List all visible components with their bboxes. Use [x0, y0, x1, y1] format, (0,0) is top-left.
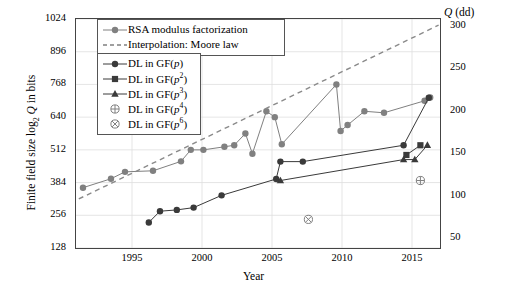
- data-point-circle: [277, 158, 283, 164]
- data-point-circle: [221, 144, 227, 150]
- legend-sample: [102, 57, 128, 71]
- series-6: [304, 215, 312, 223]
- data-point-circle: [112, 26, 118, 32]
- data-point-circle: [242, 130, 248, 136]
- legend-item-label: DL in GF(p3): [128, 87, 187, 100]
- x-tick-label: 2015: [382, 252, 442, 263]
- data-point-circle: [190, 204, 196, 210]
- data-point-circle: [344, 122, 350, 128]
- legend-primary-item[interactable]: Interpolation: Moore law: [102, 37, 280, 52]
- legend-primary-item[interactable]: RSA modulus factorization: [102, 22, 280, 37]
- x-tick-label: 2005: [242, 252, 302, 263]
- data-point-circle: [200, 147, 206, 153]
- data-point-circle: [174, 207, 180, 213]
- data-point-circle: [381, 110, 387, 116]
- data-point-circle: [337, 128, 343, 134]
- legend-sample: [102, 72, 128, 86]
- data-point-circle: [426, 95, 432, 101]
- legend-sample: [102, 38, 128, 52]
- data-point-circled-plus: [416, 176, 424, 184]
- data-point-circle: [279, 141, 285, 147]
- data-point-circle: [122, 169, 128, 175]
- data-point-circle: [218, 192, 224, 198]
- data-point-triangle: [424, 141, 431, 148]
- data-point-circle: [231, 142, 237, 148]
- y-tick-label: 1024: [22, 12, 66, 23]
- y-tick-label: 768: [22, 77, 66, 88]
- data-point-circle: [112, 60, 118, 66]
- y-tick-label: 640: [22, 110, 66, 121]
- data-point-circle: [361, 108, 367, 114]
- legend-dl-item[interactable]: DL in GF(p4): [102, 101, 196, 116]
- y-tick-label: 512: [22, 143, 66, 154]
- chart-figure: Finite field size log2 Q in bits Q (dd) …: [0, 0, 507, 293]
- legend-item-label: DL in GF(p): [128, 58, 183, 69]
- right-tick-label: 50: [450, 231, 484, 242]
- data-point-circle: [150, 168, 156, 174]
- x-axis-title: Year: [0, 270, 507, 282]
- data-point-square: [417, 142, 423, 148]
- y-tick-label: 256: [22, 208, 66, 219]
- x-tick-label: 2010: [312, 252, 372, 263]
- data-point-circle: [249, 150, 255, 156]
- right-tick-label: 150: [450, 146, 484, 157]
- right-tick-label: 300: [450, 19, 484, 30]
- legend-sample: [102, 87, 128, 101]
- data-point-circle: [178, 158, 184, 164]
- data-point-circle: [157, 208, 163, 214]
- y-tick-label: 896: [22, 45, 66, 56]
- data-point-circled-times: [304, 215, 312, 223]
- data-point-circle: [333, 81, 339, 87]
- series-5: [416, 176, 424, 184]
- legend-sample: [102, 117, 128, 131]
- y-tick-label: 384: [22, 176, 66, 187]
- legend-item-label: Interpolation: Moore law: [128, 39, 239, 50]
- legend-dl-item[interactable]: DL in GF(p6): [102, 116, 196, 131]
- data-point-circle: [108, 176, 114, 182]
- legend-item-label: DL in GF(p6): [128, 117, 187, 130]
- right-tick-label: 100: [450, 189, 484, 200]
- legend-dl-item[interactable]: DL in GF(p3): [102, 86, 196, 101]
- legend-box-dl: DL in GF(p)DL in GF(p2)DL in GF(p3)DL in…: [97, 53, 201, 135]
- x-tick-label: 2000: [172, 252, 232, 263]
- legend-box-primary: RSA modulus factorizationInterpolation: …: [97, 19, 285, 56]
- legend-item-label: RSA modulus factorization: [128, 24, 248, 35]
- legend-sample: [102, 102, 128, 116]
- data-point-square: [112, 75, 118, 81]
- data-point-circle: [272, 114, 278, 120]
- x-tick-label: 1995: [102, 252, 162, 263]
- legend-dl-item[interactable]: DL in GF(p2): [102, 71, 196, 86]
- data-point-circled-times: [111, 119, 119, 127]
- legend-item-label: DL in GF(p2): [128, 72, 187, 85]
- right-axis-title: Q (dd): [444, 6, 474, 18]
- data-point-circle: [300, 158, 306, 164]
- legend-item-label: DL in GF(p4): [128, 102, 187, 115]
- right-tick-label: 250: [450, 61, 484, 72]
- y-tick-label: 128: [22, 241, 66, 252]
- data-point-circle: [188, 147, 194, 153]
- legend-sample: [102, 23, 128, 37]
- data-point-circle: [80, 184, 86, 190]
- data-point-circle: [146, 219, 152, 225]
- data-point-circle: [400, 142, 406, 148]
- data-point-triangle: [111, 90, 118, 97]
- data-point-circled-plus: [111, 104, 119, 112]
- right-tick-label: 200: [450, 104, 484, 115]
- legend-dl-item[interactable]: DL in GF(p): [102, 56, 196, 71]
